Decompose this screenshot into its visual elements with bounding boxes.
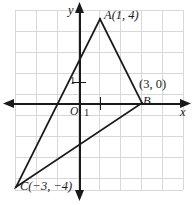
vertex-c-dot xyxy=(15,186,17,188)
coordinate-plane-figure: A(1, 4) B (3, 0) C(−3, −4) x y O 1 1 xyxy=(0,0,194,205)
vertex-a-dot xyxy=(99,18,101,20)
vertex-label-c: C(−3, −4) xyxy=(20,180,72,193)
vertex-label-a: A(1, 4) xyxy=(104,9,139,22)
x-axis-label: x xyxy=(180,106,186,119)
vertex-coords-b: (3, 0) xyxy=(139,78,166,91)
origin-label: O xyxy=(70,106,78,118)
figure-canvas xyxy=(0,0,194,205)
x-axis-tick-label-one: 1 xyxy=(84,108,89,119)
y-axis-arrow-up xyxy=(75,2,84,13)
y-axis-arrow-down xyxy=(75,190,84,201)
grid-lines xyxy=(15,10,184,191)
vertex-label-b: B xyxy=(143,95,151,108)
y-axis-label: y xyxy=(68,4,74,17)
y-axis-tick-label-one: 1 xyxy=(70,76,75,87)
x-axis-arrow-left xyxy=(3,99,14,108)
